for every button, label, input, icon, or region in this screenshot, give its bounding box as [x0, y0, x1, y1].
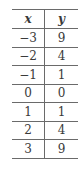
cell-x: −1 — [12, 66, 45, 85]
cell-y: 0 — [45, 84, 79, 103]
cell-x: 3 — [12, 140, 45, 159]
table-row: 3 9 — [12, 140, 78, 159]
table-row: −3 9 — [12, 29, 78, 48]
cell-y: 9 — [45, 140, 79, 159]
table-row: −2 4 — [12, 47, 78, 66]
table-header-row: x y — [12, 10, 78, 29]
cell-x: 0 — [12, 84, 45, 103]
header-x: x — [12, 10, 45, 29]
cell-x: −2 — [12, 47, 45, 66]
header-y: y — [45, 10, 79, 29]
xy-value-table: x y −3 9 −2 4 −1 1 0 0 1 1 — [12, 9, 78, 159]
cell-y: 1 — [45, 66, 79, 85]
cell-y: 9 — [45, 29, 79, 48]
xy-value-table-container: x y −3 9 −2 4 −1 1 0 0 1 1 — [12, 9, 78, 159]
table-row: 0 0 — [12, 84, 78, 103]
cell-y: 1 — [45, 103, 79, 122]
cell-x: 2 — [12, 121, 45, 140]
cell-y: 4 — [45, 47, 79, 66]
table-row: 1 1 — [12, 103, 78, 122]
cell-x: −3 — [12, 29, 45, 48]
cell-x: 1 — [12, 103, 45, 122]
table-row: −1 1 — [12, 66, 78, 85]
cell-y: 4 — [45, 121, 79, 140]
table-row: 2 4 — [12, 121, 78, 140]
